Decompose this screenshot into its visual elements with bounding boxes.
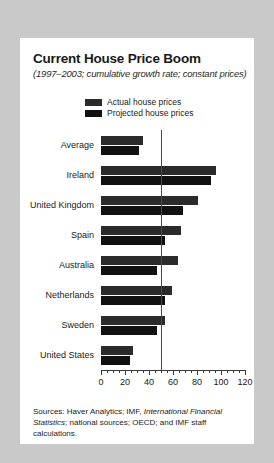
category-label: United States — [40, 350, 94, 360]
legend-item-label: Projected house prices — [107, 109, 193, 118]
category-label: Australia — [59, 260, 94, 270]
bar — [101, 226, 181, 235]
x-axis-tick-label: 0 — [98, 377, 103, 387]
x-axis-major-tick — [221, 370, 222, 375]
bar — [101, 176, 211, 185]
bar — [101, 266, 157, 275]
x-axis-tick-label: 20 — [120, 377, 130, 387]
bar-group: Average — [101, 130, 245, 160]
bar — [101, 356, 130, 365]
bar-group: Australia — [101, 250, 245, 280]
bar — [101, 236, 165, 245]
x-axis-minor-tick — [131, 370, 132, 373]
x-axis-minor-tick — [185, 370, 186, 373]
category-label: Sweden — [61, 320, 94, 330]
chart-legend: Actual house pricesProjected house price… — [85, 98, 193, 120]
source-line1-prefix: Sources: Haver Analytics; IMF, — [33, 407, 144, 416]
reference-line — [161, 130, 162, 370]
category-label: Ireland — [66, 170, 94, 180]
category-label: Netherlands — [45, 290, 94, 300]
x-axis-minor-tick — [227, 370, 228, 373]
bar-group: Spain — [101, 220, 245, 250]
bar-group: Sweden — [101, 310, 245, 340]
bar-group: Netherlands — [101, 280, 245, 310]
chart-plot-area: AverageIrelandUnited KingdomSpainAustral… — [101, 130, 245, 370]
bar — [101, 296, 165, 305]
chart-source-note: Sources: Haver Analytics; IMF, Internati… — [33, 406, 244, 439]
x-axis-tick-label: 100 — [213, 377, 228, 387]
legend-swatch-icon — [85, 110, 102, 117]
bar — [101, 346, 133, 355]
x-axis-minor-tick — [167, 370, 168, 373]
bar — [101, 326, 157, 335]
bar — [101, 166, 216, 175]
x-axis-minor-tick — [119, 370, 120, 373]
x-axis-tick-label: 60 — [168, 377, 178, 387]
chart-subtitle: (1997–2003; cumulative growth rate; cons… — [33, 68, 247, 79]
bar — [101, 146, 139, 155]
x-axis-minor-tick — [233, 370, 234, 373]
bar — [101, 206, 183, 215]
x-axis-major-tick — [197, 370, 198, 375]
x-axis-major-tick — [125, 370, 126, 375]
source-line1-suffix: ; — [65, 418, 67, 427]
x-axis-minor-tick — [113, 370, 114, 373]
bar — [101, 316, 165, 325]
x-axis-minor-tick — [143, 370, 144, 373]
x-axis-major-tick — [173, 370, 174, 375]
x-axis-minor-tick — [191, 370, 192, 373]
chart-figure-panel: Current House Price Boom (1997–2003; cum… — [20, 38, 254, 444]
x-axis-minor-tick — [107, 370, 108, 373]
chart-title: Current House Price Boom — [33, 51, 201, 66]
x-axis-minor-tick — [239, 370, 240, 373]
bar — [101, 196, 198, 205]
category-label: United Kingdom — [30, 200, 94, 210]
x-axis: 020406080100120 — [101, 370, 245, 396]
x-axis-minor-tick — [215, 370, 216, 373]
x-axis-minor-tick — [155, 370, 156, 373]
x-axis-tick-label: 40 — [144, 377, 154, 387]
bar-group: United States — [101, 340, 245, 370]
x-axis-minor-tick — [161, 370, 162, 373]
x-axis-major-tick — [245, 370, 246, 375]
bar-group: Ireland — [101, 160, 245, 190]
x-axis-tick-label: 120 — [237, 377, 252, 387]
legend-item: Actual house prices — [85, 98, 193, 107]
bar — [101, 136, 143, 145]
category-label: Spain — [71, 230, 94, 240]
bar-group: United Kingdom — [101, 190, 245, 220]
x-axis-minor-tick — [179, 370, 180, 373]
x-axis-minor-tick — [203, 370, 204, 373]
x-axis-minor-tick — [137, 370, 138, 373]
x-axis-minor-tick — [209, 370, 210, 373]
x-axis-major-tick — [101, 370, 102, 375]
legend-swatch-icon — [85, 99, 102, 106]
x-axis-major-tick — [149, 370, 150, 375]
legend-item-label: Actual house prices — [107, 98, 181, 107]
category-label: Average — [61, 140, 94, 150]
bar — [101, 256, 178, 265]
x-axis-tick-label: 80 — [192, 377, 202, 387]
legend-item: Projected house prices — [85, 109, 193, 118]
